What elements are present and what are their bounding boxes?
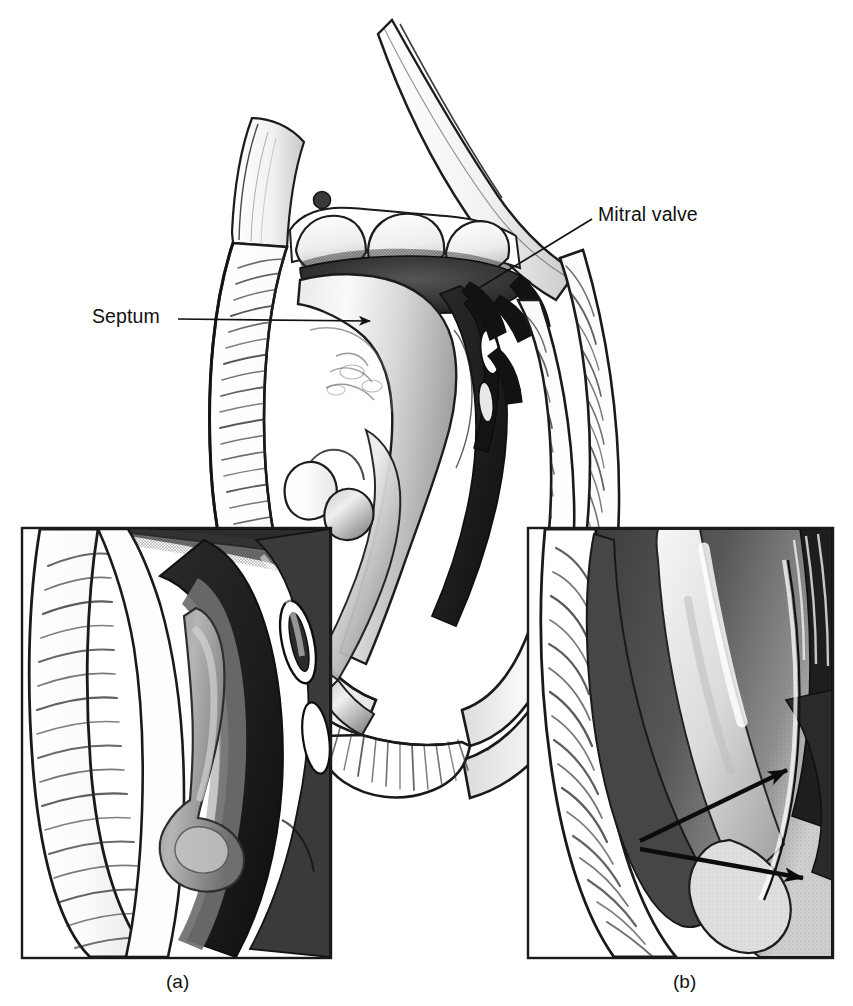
panel-b-content: [529, 529, 832, 957]
mitral-valve-label: Mitral valve: [598, 205, 698, 225]
panel-b-caption: (b): [673, 972, 696, 991]
heart-illustration-artwork: [0, 0, 853, 1006]
septum-label: Septum: [92, 307, 160, 327]
coronary-ostium: [314, 192, 331, 209]
heart-cross-section-figure: Septum Mitral valve (a) (b): [0, 0, 853, 1006]
panel-a-caption: (a): [166, 972, 189, 991]
panel-a-content: [23, 528, 334, 957]
